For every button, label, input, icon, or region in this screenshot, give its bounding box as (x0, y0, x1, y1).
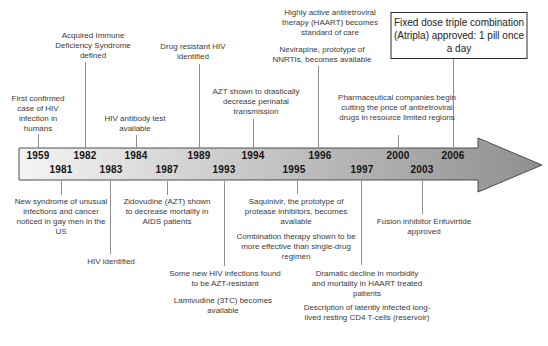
event-haart-standard-of-care: Highly active antiretroviral therapy (HA… (270, 8, 390, 38)
year-1997: 1997 (350, 164, 373, 175)
event-new-syndrome-gay-men: New syndrome of unusual infections and c… (10, 197, 112, 237)
connector-1981 (61, 181, 62, 195)
year-1984: 1984 (124, 150, 147, 161)
year-1996: 1996 (308, 150, 331, 161)
year-1987: 1987 (155, 164, 178, 175)
year-2006: 2006 (441, 150, 464, 161)
event-hiv-identified: HIV identified (76, 257, 146, 267)
event-enfuvirtide-approved: Fusion inhibitor Enfuvirtide approved (377, 217, 472, 237)
connector-1996 (318, 66, 319, 148)
event-zidovudine-azt-mortality: Zidovudine (AZT) shown to decrease morta… (123, 197, 211, 227)
year-1995: 1995 (282, 164, 305, 175)
year-2003: 2003 (410, 164, 433, 175)
year-2000: 2000 (386, 150, 409, 161)
year-1994: 1994 (241, 150, 264, 161)
event-saquinivir-protease: Saquinivir, the prototype of protease in… (234, 197, 359, 227)
connector-1987 (167, 181, 168, 195)
event-nevirapine-nnrti: Nevirapine, prototype of NNRTIs, becomes… (265, 45, 380, 65)
connector-1997 (361, 181, 362, 265)
event-atripla-approved-box: Fixed dose triple combination (Atripla) … (391, 12, 528, 59)
event-aids-defined: Acquired Immune Deficiency Syndrome defi… (43, 31, 143, 61)
connector-2000 (398, 135, 399, 148)
year-1959: 1959 (26, 150, 49, 161)
connector-1959 (38, 134, 39, 148)
connector-2003 (422, 181, 423, 214)
event-latent-cd4-reservoir: Description of latently infected long-li… (297, 303, 437, 323)
year-1981: 1981 (49, 164, 72, 175)
connector-1994 (253, 119, 254, 148)
connector-1993 (224, 181, 225, 266)
event-azt-perinatal: AZT shown to drastically decrease perina… (206, 87, 306, 117)
event-pharma-price-cuts: Pharmaceutical companies begin cutting t… (338, 93, 456, 123)
connector-1989 (199, 64, 200, 148)
event-drug-resistant-hiv: Drug resistant HIV identified (158, 42, 228, 62)
event-hiv-antibody-test: HIV antibody test available (90, 114, 180, 134)
event-azt-resistant-infections: Some new HIV infections found to be AZT-… (166, 269, 284, 289)
connector-1995 (297, 181, 298, 194)
event-combination-therapy: Combination therapy shown to be more eff… (231, 232, 361, 262)
hiv-timeline-diagram: 1959 1982 1984 1989 1994 1996 2000 2006 … (0, 0, 548, 346)
timeline-arrow-shape (19, 138, 542, 192)
year-1989: 1989 (187, 150, 210, 161)
event-haart-mortality-decline: Dramatic decline in morbidity and mortal… (310, 269, 425, 299)
year-1983: 1983 (99, 164, 122, 175)
year-1993: 1993 (212, 164, 235, 175)
event-lamivudine-3tc: Lamivudine (3TC) becomes available (164, 296, 282, 316)
event-first-confirmed-hiv-case: First confirmed case of HIV infection in… (4, 94, 72, 134)
year-1982: 1982 (73, 150, 96, 161)
connector-1984 (136, 135, 137, 148)
connector-1982 (85, 62, 86, 148)
